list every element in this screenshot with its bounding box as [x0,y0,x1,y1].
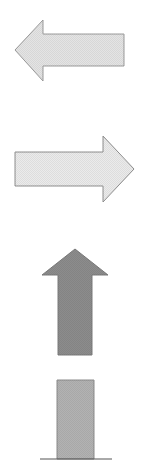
arrow-shapes-drawing [0,0,157,461]
right-arrow-icon[interactable] [15,136,134,202]
bar-block-icon[interactable] [57,380,94,459]
left-arrow-icon[interactable] [15,20,124,81]
up-arrow-icon[interactable] [42,249,108,355]
shape-canvas [0,0,157,461]
